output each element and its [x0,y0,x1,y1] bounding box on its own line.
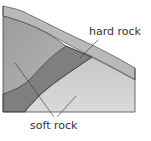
hard-rock-label: hard rock [89,25,141,38]
soft-rock-label: soft rock [30,119,77,132]
